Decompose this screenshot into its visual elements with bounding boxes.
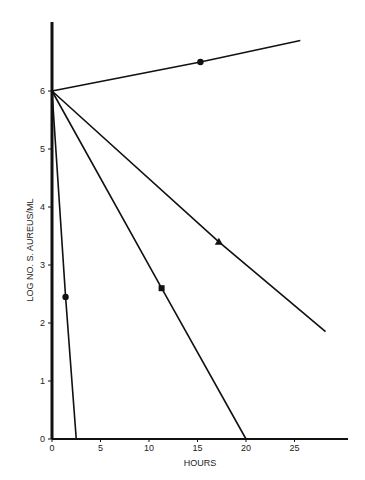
y-tick-label: 3 [40, 260, 45, 270]
y-tick-label: 5 [40, 144, 45, 154]
chart: 01234560510152025 HOURS LOG NO. S. AUREU… [0, 0, 365, 480]
circle-marker [62, 294, 68, 300]
y-tick-label: 2 [40, 318, 45, 328]
series-line [52, 91, 76, 439]
axes: 01234560510152025 [40, 22, 348, 453]
square-marker [159, 285, 165, 291]
y-tick-label: 6 [40, 86, 45, 96]
y-axis-label: LOG NO. S. AUREUS/ML [25, 198, 35, 301]
circle-marker [197, 59, 203, 65]
x-axis-label: HOURS [184, 458, 217, 468]
x-tick-label: 25 [289, 443, 299, 453]
x-tick-label: 15 [192, 443, 202, 453]
y-tick-label: 4 [40, 202, 45, 212]
x-tick-label: 0 [49, 443, 54, 453]
series-line [52, 91, 326, 332]
series-line [52, 91, 246, 439]
x-tick-label: 10 [144, 443, 154, 453]
y-tick-label: 0 [40, 434, 45, 444]
y-tick-label: 1 [40, 376, 45, 386]
series-line [52, 41, 300, 91]
series-lines [52, 41, 326, 439]
x-tick-label: 5 [98, 443, 103, 453]
x-tick-label: 20 [241, 443, 251, 453]
